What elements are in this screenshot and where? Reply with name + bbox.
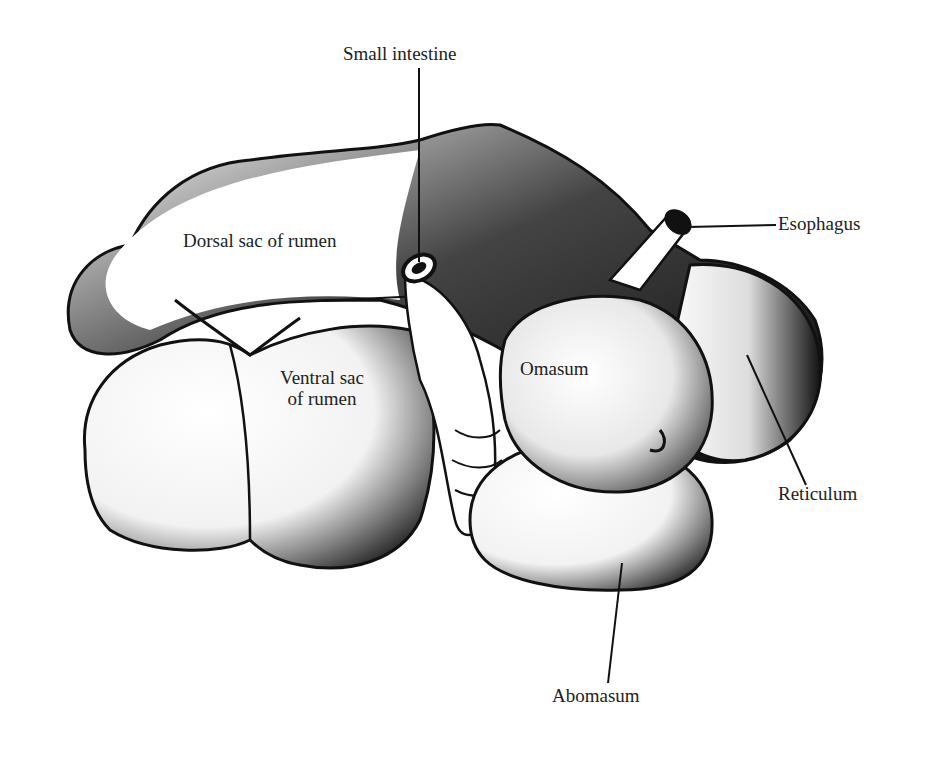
label-ventral-sac-line2: of rumen [262,389,382,410]
esophagus-leader [688,225,776,227]
label-omasum: Omasum [520,359,589,380]
label-reticulum: Reticulum [778,484,857,505]
omasum-shape [500,296,712,492]
label-ventral-sac: Ventral sac of rumen [262,368,382,410]
label-small-intestine: Small intestine [343,44,456,65]
stomach-illustration [0,0,940,757]
label-ventral-sac-line1: Ventral sac [262,368,382,389]
rumen-diagram: Small intestine Esophagus Dorsal sac of … [0,0,940,757]
label-dorsal-sac: Dorsal sac of rumen [183,231,337,252]
label-esophagus: Esophagus [778,214,860,235]
label-abomasum: Abomasum [552,686,640,707]
